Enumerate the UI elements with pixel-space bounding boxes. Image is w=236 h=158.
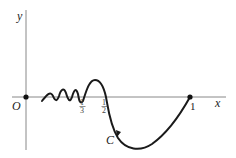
svg-text:3: 3 xyxy=(80,106,84,115)
origin-label: O xyxy=(12,99,21,113)
point-one xyxy=(187,94,192,99)
curve-label: C xyxy=(106,133,115,147)
diagram-canvas: y x O 1 C 1 3 1 2 xyxy=(0,0,236,158)
point-one-label: 1 xyxy=(190,100,196,112)
svg-text:2: 2 xyxy=(102,106,106,115)
y-axis-label: y xyxy=(16,9,23,23)
x-axis-label: x xyxy=(214,96,221,110)
origin-point xyxy=(23,94,28,99)
curve-c xyxy=(42,80,190,149)
tick-one-third: 1 3 xyxy=(80,98,86,115)
